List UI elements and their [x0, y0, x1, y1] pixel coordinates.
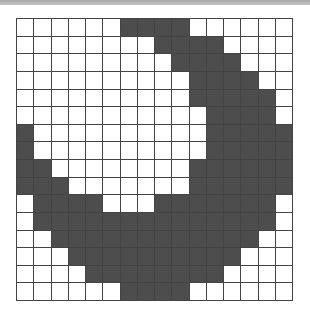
grid-cell[interactable]	[240, 53, 257, 71]
grid-cell[interactable]	[33, 159, 50, 177]
grid-cell[interactable]	[85, 247, 102, 265]
grid-cell[interactable]	[240, 89, 257, 107]
grid-cell[interactable]	[68, 36, 85, 54]
grid-cell[interactable]	[68, 53, 85, 71]
grid-cell[interactable]	[240, 71, 257, 89]
grid-cell[interactable]	[68, 177, 85, 195]
grid-cell[interactable]	[16, 265, 33, 283]
grid-cell[interactable]	[206, 18, 223, 36]
grid-cell[interactable]	[189, 141, 206, 159]
grid-cell[interactable]	[275, 282, 292, 300]
grid-cell[interactable]	[51, 230, 68, 248]
grid-cell[interactable]	[51, 124, 68, 142]
grid-cell[interactable]	[206, 124, 223, 142]
grid-cell[interactable]	[68, 265, 85, 283]
grid-cell[interactable]	[68, 247, 85, 265]
grid-cell[interactable]	[154, 159, 171, 177]
grid-cell[interactable]	[51, 265, 68, 283]
grid-cell[interactable]	[223, 71, 240, 89]
grid-cell[interactable]	[137, 36, 154, 54]
grid-cell[interactable]	[275, 230, 292, 248]
grid-cell[interactable]	[189, 265, 206, 283]
grid-cell[interactable]	[102, 194, 119, 212]
grid-cell[interactable]	[154, 282, 171, 300]
grid-cell[interactable]	[102, 53, 119, 71]
grid-cell[interactable]	[51, 194, 68, 212]
grid-cell[interactable]	[68, 194, 85, 212]
grid-cell[interactable]	[120, 36, 137, 54]
grid-cell[interactable]	[258, 71, 275, 89]
grid-cell[interactable]	[189, 53, 206, 71]
grid-cell[interactable]	[16, 282, 33, 300]
grid-cell[interactable]	[102, 159, 119, 177]
grid-cell[interactable]	[275, 194, 292, 212]
grid-cell[interactable]	[16, 71, 33, 89]
grid-cell[interactable]	[206, 265, 223, 283]
grid-cell[interactable]	[120, 194, 137, 212]
grid-cell[interactable]	[120, 18, 137, 36]
grid-cell[interactable]	[171, 53, 188, 71]
grid-cell[interactable]	[51, 141, 68, 159]
grid-cell[interactable]	[137, 265, 154, 283]
grid-cell[interactable]	[258, 212, 275, 230]
grid-cell[interactable]	[85, 89, 102, 107]
grid-cell[interactable]	[120, 159, 137, 177]
grid-cell[interactable]	[68, 141, 85, 159]
grid-cell[interactable]	[102, 89, 119, 107]
grid-cell[interactable]	[33, 89, 50, 107]
grid-cell[interactable]	[189, 230, 206, 248]
grid-cell[interactable]	[171, 89, 188, 107]
grid-cell[interactable]	[258, 89, 275, 107]
grid-cell[interactable]	[275, 71, 292, 89]
grid-cell[interactable]	[240, 18, 257, 36]
grid-cell[interactable]	[68, 230, 85, 248]
grid-cell[interactable]	[102, 106, 119, 124]
grid-cell[interactable]	[154, 265, 171, 283]
grid-cell[interactable]	[275, 247, 292, 265]
grid-cell[interactable]	[16, 53, 33, 71]
grid-cell[interactable]	[206, 89, 223, 107]
grid-cell[interactable]	[206, 282, 223, 300]
grid-cell[interactable]	[85, 71, 102, 89]
grid-cell[interactable]	[102, 71, 119, 89]
grid-cell[interactable]	[171, 106, 188, 124]
grid-cell[interactable]	[240, 230, 257, 248]
grid-cell[interactable]	[85, 141, 102, 159]
grid-cell[interactable]	[189, 71, 206, 89]
grid-cell[interactable]	[171, 212, 188, 230]
grid-cell[interactable]	[137, 18, 154, 36]
grid-cell[interactable]	[240, 124, 257, 142]
grid-cell[interactable]	[137, 212, 154, 230]
grid-cell[interactable]	[275, 141, 292, 159]
grid-cell[interactable]	[137, 124, 154, 142]
grid-cell[interactable]	[206, 106, 223, 124]
grid-cell[interactable]	[16, 194, 33, 212]
grid-cell[interactable]	[85, 36, 102, 54]
grid-cell[interactable]	[206, 71, 223, 89]
grid-cell[interactable]	[258, 194, 275, 212]
grid-cell[interactable]	[275, 53, 292, 71]
grid-cell[interactable]	[51, 89, 68, 107]
grid-cell[interactable]	[240, 194, 257, 212]
grid-cell[interactable]	[275, 212, 292, 230]
grid-cell[interactable]	[137, 106, 154, 124]
grid-cell[interactable]	[68, 159, 85, 177]
grid-cell[interactable]	[206, 194, 223, 212]
grid-cell[interactable]	[154, 247, 171, 265]
grid-cell[interactable]	[171, 265, 188, 283]
grid-cell[interactable]	[120, 212, 137, 230]
grid-cell[interactable]	[240, 36, 257, 54]
grid-cell[interactable]	[275, 265, 292, 283]
grid-cell[interactable]	[206, 177, 223, 195]
grid-cell[interactable]	[189, 247, 206, 265]
grid-cell[interactable]	[85, 53, 102, 71]
grid-cell[interactable]	[120, 282, 137, 300]
grid-cell[interactable]	[33, 124, 50, 142]
grid-cell[interactable]	[258, 106, 275, 124]
grid-cell[interactable]	[240, 177, 257, 195]
grid-cell[interactable]	[51, 159, 68, 177]
grid-cell[interactable]	[68, 212, 85, 230]
grid-cell[interactable]	[33, 247, 50, 265]
grid-cell[interactable]	[223, 265, 240, 283]
grid-cell[interactable]	[240, 247, 257, 265]
